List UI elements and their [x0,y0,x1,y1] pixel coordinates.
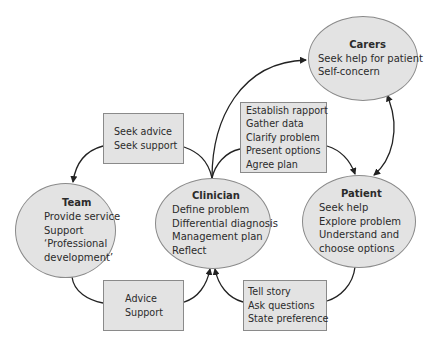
arrow-advice-box-to-clinician [184,269,210,302]
box-line: Ask questions [248,299,326,313]
node-line: Provide service [44,210,115,224]
arrow-team-to-advice-box [72,277,103,303]
box-line: Seek advice [114,125,183,139]
arrow-clinician-to-seek-advice-box [184,147,212,178]
box-line: Gather data [246,117,326,131]
node-line: Define problem [172,203,270,217]
arrow-seek-advice-box-to-team [73,146,103,182]
node-title: Clinician [172,190,270,201]
arrow-rapport-box-to-patient [327,146,355,174]
node-line: Understand and [319,228,415,242]
box-establish-rapport: Establish rapport Gather data Clarify pr… [240,102,327,173]
node-title: Team [44,197,115,208]
node-line: Reflect [172,244,270,258]
box-line: Advice [125,292,183,306]
node-title: Carers [318,39,417,50]
node-title: Patient [319,188,415,199]
node-line: development’ [44,251,115,265]
node-line: Seek help for patient [318,52,417,66]
box-line: Establish rapport [246,104,326,118]
node-line: Support [44,224,115,238]
node-line: choose options [319,242,415,256]
box-tell-story: Tell story Ask questions State preferenc… [243,280,327,331]
node-line: Management plan [172,230,270,244]
node-line: Seek help [319,201,415,215]
node-patient: Patient Seek help Explore problem Unders… [302,175,416,268]
box-line: Clarify problem [246,131,326,145]
node-clinician: Clinician Define problem Differential di… [155,178,271,269]
arrow-tell-story-box-to-clinician [215,269,243,302]
arrow-patient-to-tell-story-box [327,267,355,301]
box-line: Present options [246,144,326,158]
arrow-clinician-to-rapport-box [212,149,240,178]
node-line: Explore problem [319,215,415,229]
node-line: ‘Professional [44,237,115,251]
box-line: Agree plan [246,158,326,172]
box-line: Tell story [248,285,326,299]
box-advice-support: Advice Support [103,280,184,331]
box-line: Support [125,306,183,320]
box-line: State preference [248,312,326,326]
node-line: Differential diagnosis [172,217,270,231]
node-team: Team Provide service Support ‘Profession… [15,183,116,278]
node-line: Self-concern [318,65,417,79]
node-carers: Carers Seek help for patient Self-concer… [308,16,418,101]
box-line: Seek support [114,139,183,153]
box-seek-advice: Seek advice Seek support [103,113,184,164]
arrow-carers-patient-bidirectional [374,100,394,175]
